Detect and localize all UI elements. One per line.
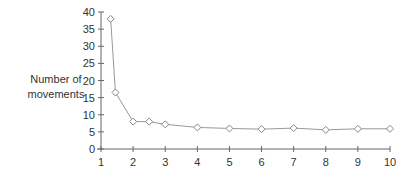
y-tick-label: 15 (83, 92, 95, 104)
line-chart: Number of movements 05101520253035401234… (0, 0, 408, 184)
axes: 051015202530354012345678910 (83, 6, 396, 168)
data-point-diamond-icon (130, 118, 137, 125)
data-point-diamond-icon (194, 124, 201, 131)
x-tick-label: 4 (194, 156, 200, 168)
data-point-diamond-icon (354, 125, 361, 132)
y-axis-label-line-2: movements (28, 88, 85, 100)
data-point-diamond-icon (290, 125, 297, 132)
data-point-diamond-icon (322, 126, 329, 133)
y-tick-label: 10 (83, 109, 95, 121)
x-tick-label: 10 (384, 156, 396, 168)
data-point-diamond-icon (146, 118, 153, 125)
data-point-diamond-icon (162, 121, 169, 128)
y-tick-label: 30 (83, 40, 95, 52)
y-tick-label: 5 (89, 126, 95, 138)
x-tick-label: 7 (291, 156, 297, 168)
x-tick-label: 3 (162, 156, 168, 168)
x-tick-label: 1 (98, 156, 104, 168)
y-tick-label: 0 (89, 143, 95, 155)
data-point-diamond-icon (387, 125, 394, 132)
data-line (111, 19, 390, 130)
data-point-diamond-icon (112, 89, 119, 96)
chart-canvas: Number of movements 05101520253035401234… (0, 0, 408, 184)
y-tick-label: 25 (83, 57, 95, 69)
x-tick-label: 6 (258, 156, 264, 168)
x-tick-label: 8 (323, 156, 329, 168)
y-tick-label: 35 (83, 23, 95, 35)
x-tick-label: 2 (130, 156, 136, 168)
y-axis-label-line-1: Number of (30, 73, 82, 85)
plot-area (107, 15, 393, 133)
y-tick-label: 20 (83, 75, 95, 87)
data-point-diamond-icon (226, 125, 233, 132)
x-tick-label: 9 (355, 156, 361, 168)
data-point-diamond-icon (107, 15, 114, 22)
y-tick-label: 40 (83, 6, 95, 18)
data-point-diamond-icon (258, 126, 265, 133)
x-tick-label: 5 (226, 156, 232, 168)
